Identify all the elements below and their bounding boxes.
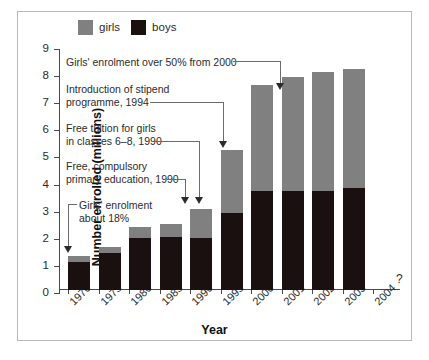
square-swatch-icon <box>131 20 146 35</box>
bar-2002[interactable] <box>312 72 334 290</box>
leader-line-a2-v <box>223 102 224 144</box>
bar-segment-girls-2001[interactable] <box>282 77 304 191</box>
annotation-stipend-1994: Introduction of stipend programme, 1994 <box>66 83 169 109</box>
leader-line-a3-h <box>152 141 199 142</box>
y-tick-label-8: 8 <box>27 69 49 81</box>
x-axis-title: Year <box>0 323 429 337</box>
y-tick-label-2: 2 <box>27 232 49 244</box>
y-tick-label-5: 5 <box>27 150 49 162</box>
annotation-primary-education-1990: Free, compulsory primary education, 1990 <box>66 160 179 186</box>
bar-segment-girls-1980[interactable] <box>129 227 151 238</box>
legend-label-girls: girls <box>99 22 120 34</box>
bar-segment-boys-2003[interactable] <box>343 188 365 290</box>
y-tick-4 <box>54 185 59 186</box>
leader-line-a4-h <box>167 179 185 180</box>
bar-segment-boys-2000[interactable] <box>251 191 273 290</box>
annotation-girls-about-18: Girls' enrolment about 18% <box>79 199 152 225</box>
y-tick-0 <box>54 293 59 294</box>
bar-2000[interactable] <box>251 85 273 290</box>
leader-line-a5-v <box>68 204 69 248</box>
chart-legend: girls boys <box>78 20 176 35</box>
bar-1985[interactable] <box>160 224 182 290</box>
leader-arrow-a2 <box>219 141 227 148</box>
y-tick-label-1: 1 <box>27 259 49 271</box>
x-tick-2004 <box>373 289 374 294</box>
leader-arrow-a5 <box>64 246 72 253</box>
y-tick-1 <box>54 266 59 267</box>
y-axis-line <box>59 49 60 294</box>
bar-segment-boys-1985[interactable] <box>160 237 182 290</box>
bar-segment-boys-1970[interactable] <box>68 262 90 290</box>
bar-segment-boys-2002[interactable] <box>312 191 334 290</box>
y-tick-5 <box>54 157 59 158</box>
y-tick-label-6: 6 <box>27 123 49 135</box>
y-tick-label-7: 7 <box>27 96 49 108</box>
leader-line-a2-h <box>150 102 223 103</box>
y-tick-8 <box>54 76 59 77</box>
y-tick-label-9: 9 <box>27 42 49 54</box>
chart-container: girls boys Number enrolled (millions) 01… <box>0 0 429 360</box>
bar-segment-boys-1975[interactable] <box>99 253 121 290</box>
y-tick-3 <box>54 212 59 213</box>
leader-line-a1-h <box>233 61 280 62</box>
bar-segment-girls-1985[interactable] <box>160 224 182 237</box>
leader-line-a5-h <box>68 204 77 205</box>
legend-label-boys: boys <box>152 22 176 34</box>
y-tick-label-3: 3 <box>27 205 49 217</box>
y-tick-7 <box>54 103 59 104</box>
square-swatch-icon <box>78 20 93 35</box>
y-tick-label-0: 0 <box>27 286 49 298</box>
bar-segment-girls-1995[interactable] <box>221 150 243 213</box>
legend-item-girls: girls <box>78 20 120 35</box>
bar-2001[interactable] <box>282 77 304 290</box>
missing-data-question-mark: ? <box>396 272 403 286</box>
bar-1970[interactable] <box>68 256 90 290</box>
y-tick-9 <box>54 49 59 50</box>
y-tick-6 <box>54 130 59 131</box>
leader-arrow-a3 <box>195 197 203 204</box>
bar-2003[interactable] <box>343 69 365 290</box>
bar-segment-boys-2001[interactable] <box>282 191 304 290</box>
leader-line-a3-v <box>199 141 200 200</box>
bar-segment-girls-1990[interactable] <box>190 209 212 237</box>
leader-arrow-a4 <box>181 197 189 204</box>
bar-1995[interactable] <box>221 150 243 290</box>
y-tick-2 <box>54 239 59 240</box>
bar-segment-girls-2002[interactable] <box>312 72 334 191</box>
y-tick-label-4: 4 <box>27 178 49 190</box>
bar-segment-girls-2000[interactable] <box>251 85 273 191</box>
legend-item-boys: boys <box>131 20 176 35</box>
bar-1980[interactable] <box>129 227 151 290</box>
annotation-girls-over-50: Girls' enrolment over 50% from 2000 <box>66 56 237 69</box>
leader-arrow-a1 <box>276 83 284 90</box>
bar-segment-boys-1995[interactable] <box>221 213 243 290</box>
bar-1975[interactable] <box>99 247 121 290</box>
bar-segment-boys-1990[interactable] <box>190 238 212 290</box>
bar-segment-girls-2003[interactable] <box>343 69 365 188</box>
bar-1990[interactable] <box>190 209 212 290</box>
annotation-free-tuition-1990: Free tuition for girls in classes 6–8, 1… <box>66 122 162 148</box>
bar-segment-boys-1980[interactable] <box>129 238 151 290</box>
